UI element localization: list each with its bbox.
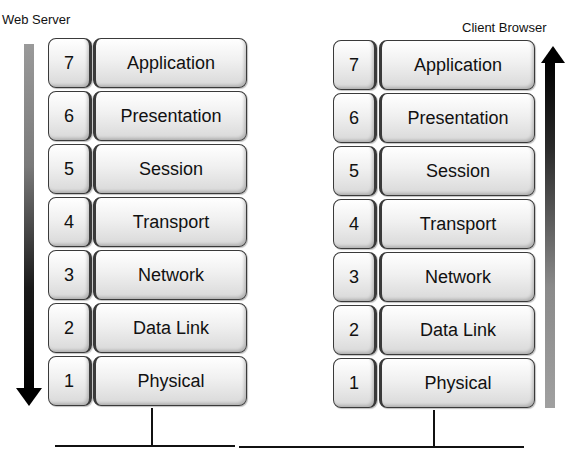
layer-name: Application <box>93 38 247 88</box>
right-connector-line <box>433 410 435 447</box>
layer-name: Data Link <box>93 303 247 353</box>
layer-number: 2 <box>333 305 377 355</box>
layer-number: 2 <box>48 303 92 353</box>
layer-number: 6 <box>333 93 377 143</box>
layer-name: Transport <box>93 197 247 247</box>
left-connector-line <box>151 408 153 446</box>
layer-name: Session <box>93 144 247 194</box>
layer-name: Data Link <box>379 305 535 355</box>
web-server-osi-stack: 7 Application 6 Presentation 5 Session 4… <box>48 38 248 410</box>
layer-name: Presentation <box>379 93 535 143</box>
layer-name: Application <box>379 40 535 90</box>
left-network-segment <box>55 445 235 447</box>
layer-number: 1 <box>333 358 377 408</box>
layer-name: Network <box>93 250 247 300</box>
right-network-segment <box>239 446 524 448</box>
down-arrow-icon <box>16 388 42 408</box>
layer-name: Transport <box>379 199 535 249</box>
layer-number: 7 <box>333 40 377 90</box>
layer-number: 4 <box>333 199 377 249</box>
layer-name: Network <box>379 252 535 302</box>
client-browser-osi-stack: 7 Application 6 Presentation 5 Session 4… <box>333 40 538 412</box>
layer-number: 3 <box>333 252 377 302</box>
layer-name: Presentation <box>93 91 247 141</box>
layer-name: Physical <box>93 356 247 406</box>
up-arrow-shaft <box>545 62 555 408</box>
layer-number: 1 <box>48 356 92 406</box>
layer-number: 5 <box>48 144 92 194</box>
down-arrow-shaft <box>24 44 34 392</box>
layer-number: 6 <box>48 91 92 141</box>
layer-number: 4 <box>48 197 92 247</box>
client-browser-title: Client Browser <box>462 20 547 35</box>
layer-name: Session <box>379 146 535 196</box>
layer-number: 3 <box>48 250 92 300</box>
layer-name: Physical <box>379 358 535 408</box>
web-server-title: Web Server <box>2 12 70 27</box>
layer-number: 7 <box>48 38 92 88</box>
layer-number: 5 <box>333 146 377 196</box>
